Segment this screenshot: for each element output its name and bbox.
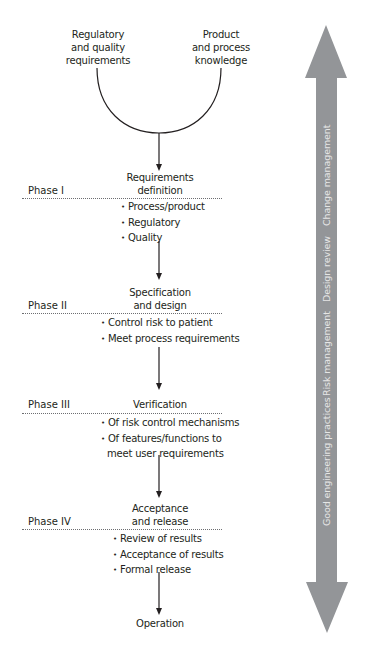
input-right-line-3: knowledge xyxy=(192,54,250,67)
bullet-item: Review of results xyxy=(113,532,223,548)
input-left-line-3: requirements xyxy=(66,54,131,67)
phase-4-divider xyxy=(22,529,222,530)
phase-2-title-line-2: and design xyxy=(129,299,191,312)
input-right-line-1: Product xyxy=(192,28,250,41)
side-label-good-engineering: Good engineering practices xyxy=(321,397,332,526)
phase-2-divider xyxy=(22,313,222,314)
phase-1-title-line-2: definition xyxy=(126,184,193,197)
phase-2-bullets: Control risk to patient Meet process req… xyxy=(101,316,240,347)
input-product-process: Product and process knowledge xyxy=(192,28,250,67)
bullet-item: Formal release xyxy=(113,563,223,579)
phase-3-title: Verification xyxy=(133,398,187,411)
bullet-item: Of risk control mechanisms xyxy=(101,416,239,432)
input-regulatory-quality: Regulatory and quality requirements xyxy=(66,28,131,67)
phase-2-title: Specification and design xyxy=(129,286,191,312)
merge-arc xyxy=(97,68,221,133)
phase-1-divider xyxy=(22,198,222,199)
phase-3-divider xyxy=(22,413,222,414)
phase-3-title-line-1: Verification xyxy=(133,398,187,411)
bullet-item: Acceptance of results xyxy=(113,548,223,564)
bullet-item: Regulatory xyxy=(121,216,205,232)
phase-3-bullets: Of risk control mechanisms Of features/f… xyxy=(101,416,239,463)
phase-4-title-line-2: and release xyxy=(132,515,188,528)
phase-4-label: Phase IV xyxy=(28,515,71,528)
side-label-change-management: Change management xyxy=(321,125,332,226)
phase-4-bullets: Review of results Acceptance of results … xyxy=(113,532,223,579)
bullet-item: Of features/functions to xyxy=(101,432,239,448)
input-left-line-2: and quality xyxy=(66,41,131,54)
bullet-item: Quality xyxy=(121,231,205,247)
input-right-line-2: and process xyxy=(192,41,250,54)
phase-2-label: Phase II xyxy=(28,299,67,312)
input-left-line-1: Regulatory xyxy=(66,28,131,41)
phase-1-title-line-1: Requirements xyxy=(126,171,193,184)
phase-4-title: Acceptance and release xyxy=(132,502,188,528)
phase-1-title: Requirements definition xyxy=(126,171,193,197)
bullet-item: Meet process requirements xyxy=(101,332,240,348)
operation-label: Operation xyxy=(136,617,184,630)
side-label-risk-management: Risk management xyxy=(321,311,332,396)
phase-3-label: Phase III xyxy=(28,398,70,411)
bullet-item: Control risk to patient xyxy=(101,316,240,332)
side-label-design-review: Design review xyxy=(321,236,332,302)
phase-2-title-line-1: Specification xyxy=(129,286,191,299)
phase-1-bullets: Process/product Regulatory Quality xyxy=(121,200,205,247)
bullet-item: Process/product xyxy=(121,200,205,216)
phase-4-title-line-1: Acceptance xyxy=(132,502,188,515)
bullet-item-continuation: meet user requirements xyxy=(101,447,239,463)
phase-1-label: Phase I xyxy=(28,184,64,197)
